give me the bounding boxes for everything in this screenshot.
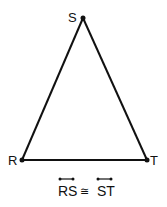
vertex-s-point [81, 16, 86, 21]
side-st [83, 18, 147, 160]
caption-left: RS [58, 183, 77, 199]
side-rs [22, 18, 83, 160]
triangle-diagram: S R T RS ≅ ST [0, 0, 167, 207]
vertex-t-label: T [150, 153, 158, 168]
vertex-r-point [20, 158, 25, 163]
vertex-s-label: S [68, 10, 77, 25]
segment-symbol-st [97, 178, 113, 181]
caption-right: ST [97, 183, 115, 199]
segment-symbol-rs [59, 178, 75, 181]
congruent-symbol: ≅ [80, 185, 89, 197]
vertex-r-label: R [8, 153, 17, 168]
triangle [22, 18, 147, 160]
vertex-t-point [145, 158, 150, 163]
